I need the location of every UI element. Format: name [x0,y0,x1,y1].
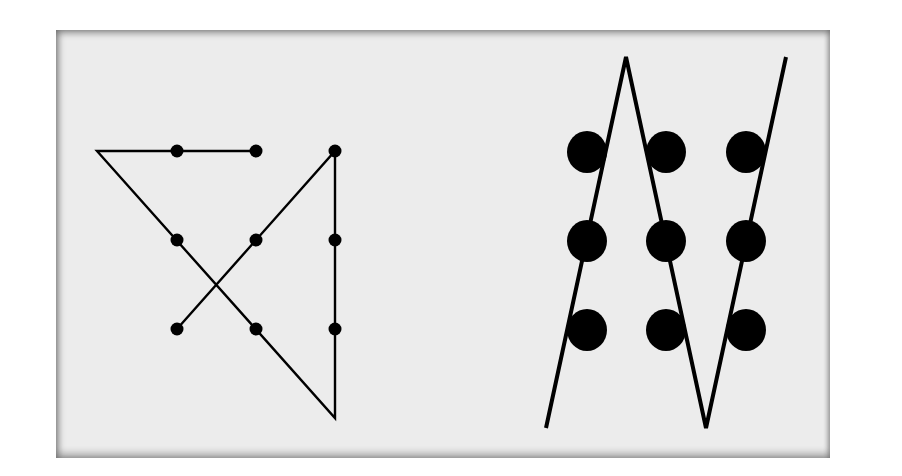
dot [726,131,766,173]
nine-dot-diagram [0,0,902,476]
dot [171,234,184,247]
dot [329,234,342,247]
dot [646,131,686,173]
dot [250,323,263,336]
dot [329,323,342,336]
dot [329,145,342,158]
dot [567,309,607,351]
dot [171,145,184,158]
large-dots-figure [546,57,786,428]
small-dots-figure [97,145,342,419]
connecting-path [97,151,335,418]
dot [250,234,263,247]
dot [250,145,263,158]
dot [171,323,184,336]
